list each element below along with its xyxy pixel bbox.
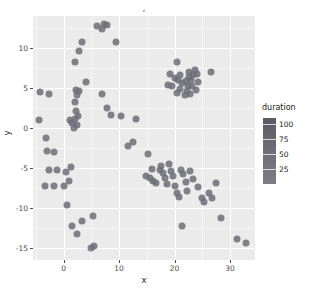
gridline-major-vertical — [119, 16, 120, 260]
data-point — [36, 117, 43, 124]
x-tick-label: 0 — [61, 264, 66, 273]
x-tick-mark — [175, 260, 176, 263]
data-point — [79, 217, 86, 224]
data-point — [72, 108, 79, 115]
data-point — [91, 242, 98, 249]
gridline-major-horizontal — [33, 48, 255, 49]
legend-colorbar-body: 100755025 — [262, 114, 320, 186]
legend-tick-label: 75 — [279, 135, 289, 144]
gridline-minor-horizontal — [33, 148, 255, 149]
gridline-minor-vertical — [36, 16, 37, 260]
y-tick-mark — [30, 88, 33, 89]
data-point — [187, 91, 194, 98]
data-point — [82, 78, 89, 85]
data-point — [174, 59, 181, 66]
y-tick-mark — [30, 168, 33, 169]
data-point — [152, 180, 159, 187]
data-point — [130, 139, 137, 146]
data-point — [187, 168, 194, 175]
plot-title: , — [33, 2, 255, 14]
data-point — [184, 188, 191, 195]
plot-panel — [33, 16, 255, 260]
data-point — [68, 164, 75, 171]
gridline-minor-horizontal — [33, 28, 255, 29]
data-point — [179, 222, 186, 229]
data-point — [51, 149, 58, 156]
data-point — [103, 105, 110, 112]
data-point — [79, 38, 86, 45]
y-tick-label: -15 — [16, 244, 28, 253]
x-tick-label: 10 — [114, 264, 124, 273]
y-tick-label: 10 — [18, 44, 28, 53]
data-point — [37, 89, 44, 96]
data-point — [182, 179, 189, 186]
legend-tick-label: 100 — [279, 120, 293, 129]
legend-title: duration — [262, 103, 320, 112]
data-point — [72, 59, 79, 66]
x-tick-mark — [119, 260, 120, 263]
data-point — [71, 98, 78, 105]
data-point — [113, 38, 120, 45]
gridline-major-vertical — [64, 16, 65, 260]
data-point — [70, 125, 77, 132]
gridline-minor-horizontal — [33, 228, 255, 229]
data-point — [46, 90, 53, 97]
data-point — [46, 167, 53, 174]
legend-tick-label: 25 — [279, 165, 289, 174]
data-point — [149, 165, 156, 172]
x-tick-mark — [230, 260, 231, 263]
x-tick-label: 20 — [170, 264, 180, 273]
legend-tick-mark — [263, 139, 276, 140]
data-point — [165, 161, 172, 168]
data-point — [72, 86, 79, 93]
data-point — [144, 151, 151, 158]
legend-tick-label: 50 — [279, 150, 289, 159]
data-point — [68, 223, 75, 230]
y-axis-label: y — [2, 113, 12, 153]
data-point — [76, 48, 83, 55]
data-point — [104, 21, 111, 28]
y-tick-mark — [30, 248, 33, 249]
data-point — [209, 195, 216, 202]
legend: duration 100755025 — [262, 103, 320, 186]
x-axis-label: x — [33, 275, 255, 285]
data-point — [194, 79, 201, 86]
y-tick-label: 0 — [23, 124, 28, 133]
gridline-minor-vertical — [202, 16, 203, 260]
y-tick-label: -10 — [16, 204, 28, 213]
data-point — [61, 182, 68, 189]
x-tick-label: 30 — [225, 264, 235, 273]
data-point — [173, 89, 180, 96]
data-point — [73, 231, 80, 238]
data-point — [242, 240, 249, 247]
scatter-plot-figure: , 0102030 1050-5-10-15 x y duration 1007… — [0, 0, 320, 297]
y-tick-mark — [30, 208, 33, 209]
legend-tick-mark — [263, 169, 276, 170]
data-point — [132, 116, 139, 123]
data-point — [117, 113, 124, 120]
x-tick-mark — [64, 260, 65, 263]
gridline-minor-horizontal — [33, 68, 255, 69]
data-point — [167, 70, 174, 77]
gridline-major-horizontal — [33, 248, 255, 249]
legend-tick-mark — [263, 154, 276, 155]
gridline-major-vertical — [230, 16, 231, 260]
data-point — [90, 213, 97, 220]
data-point — [194, 184, 201, 191]
y-tick-mark — [30, 48, 33, 49]
data-point — [212, 180, 219, 187]
legend-colorbar — [263, 118, 276, 184]
gridline-major-horizontal — [33, 88, 255, 89]
data-point — [63, 201, 70, 208]
data-point — [41, 183, 48, 190]
data-point — [50, 182, 57, 189]
y-tick-label: -5 — [21, 164, 28, 173]
legend-tick-mark — [263, 124, 276, 125]
gridline-major-horizontal — [33, 128, 255, 129]
data-point — [201, 199, 208, 206]
data-point — [99, 90, 106, 97]
data-point — [164, 81, 171, 88]
gridline-minor-horizontal — [33, 108, 255, 109]
data-point — [43, 148, 50, 155]
data-point — [185, 69, 192, 76]
